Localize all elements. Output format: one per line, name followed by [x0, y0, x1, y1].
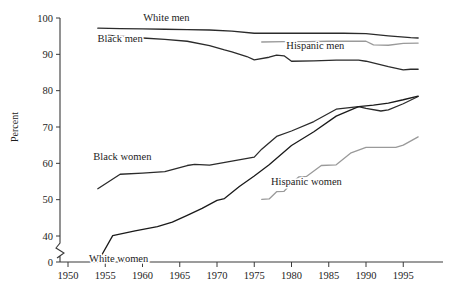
- y-tick-label: 90: [43, 49, 54, 60]
- labor-force-participation-line-chart: 1950195519601965197019751980198519901995…: [0, 0, 451, 290]
- x-tick-label: 1975: [244, 270, 265, 281]
- series-line-white-women: [98, 96, 418, 262]
- y-tick-label: 0: [48, 257, 53, 268]
- series-line-black-women: [98, 96, 418, 188]
- x-tick-label: 1990: [356, 270, 377, 281]
- x-tick-label: 1995: [393, 270, 414, 281]
- x-tick-label: 1970: [207, 270, 228, 281]
- series-label-black-women: Black women: [93, 151, 152, 162]
- chart-data-lines: [98, 28, 418, 262]
- series-line-hispanic-women: [262, 137, 418, 199]
- x-tick-label: 1955: [95, 270, 116, 281]
- y-tick-label: 60: [43, 158, 54, 169]
- series-label-white-men: White men: [143, 12, 190, 23]
- series-label-black-men: Black men: [98, 33, 144, 44]
- x-tick-label: 1950: [58, 270, 79, 281]
- x-tick-label: 1960: [132, 270, 153, 281]
- y-tick-label: 70: [43, 122, 54, 133]
- chart-series-labels: White menWhite menBlack menBlack menHisp…: [89, 12, 345, 264]
- series-line-white-men: [98, 28, 418, 38]
- y-tick-label: 100: [37, 13, 53, 24]
- y-tick-label: 40: [43, 231, 54, 242]
- series-label-hispanic-men: Hispanic men: [286, 40, 345, 51]
- chart-axes: [56, 18, 443, 262]
- chart-container: 1950195519601965197019751980198519901995…: [0, 0, 451, 290]
- y-tick-label: 80: [43, 85, 54, 96]
- y-axis-title: Percent: [9, 112, 20, 142]
- y-axis-tick-labels: 0405060708090100: [37, 13, 60, 268]
- series-label-white-women: White women: [89, 253, 149, 264]
- x-tick-label: 1980: [281, 270, 302, 281]
- y-axis-title-text: Percent: [9, 112, 20, 142]
- x-tick-label: 1985: [318, 270, 339, 281]
- series-label-hispanic-women: Hispanic women: [271, 176, 343, 187]
- x-tick-label: 1965: [169, 270, 190, 281]
- y-tick-label: 50: [43, 194, 54, 205]
- x-axis-tick-labels: 1950195519601965197019751980198519901995: [58, 262, 414, 281]
- series-line-black-men: [98, 35, 418, 70]
